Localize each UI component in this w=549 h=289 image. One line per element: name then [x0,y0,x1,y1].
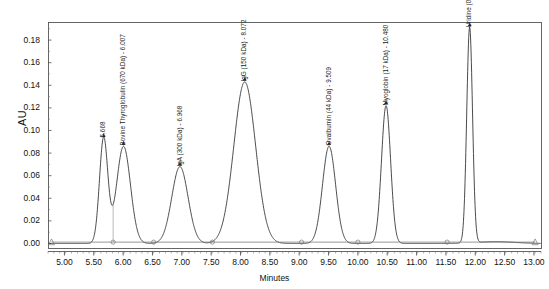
x-axis-tick-label: 13.00 [514,258,549,267]
x-axis-tick-labels: 5.005.506.006.507.007.508.008.509.009.50… [0,0,549,289]
chromatogram-chart: AU 0.180.160.140.120.100.080.060.040.020… [0,0,549,289]
x-axis-title: Minutes [0,273,549,283]
